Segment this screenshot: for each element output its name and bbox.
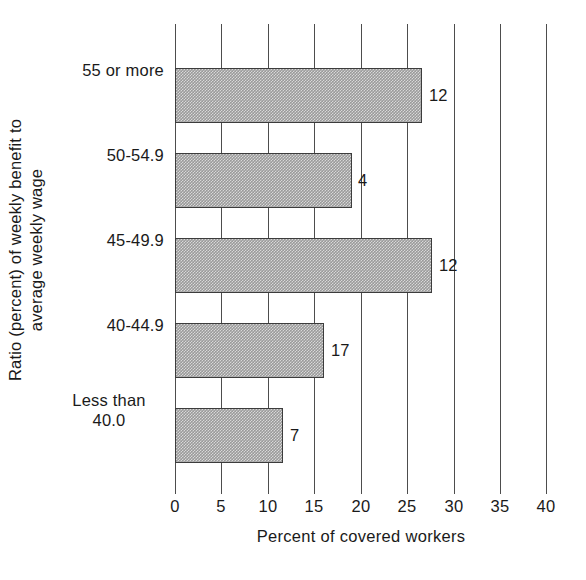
x-axis-tick-5 [221,482,222,494]
bar-value-2: 12 [439,256,457,274]
y-axis-tick-label-2: 45-49.9 [46,230,164,250]
x-axis-tick-25 [407,482,408,494]
y-axis-tick-labels: 55 or more 50-54.9 45-49.9 40-44.9 Less … [52,24,170,482]
y-axis-tick-label-4: Less than 40.0 [50,390,168,430]
gridline-40 [546,24,547,482]
bar-4[interactable] [175,408,283,463]
y-axis-tick-label-0: 55 or more [46,60,164,80]
x-axis-tick-label-6: 30 [445,496,464,516]
y-axis-tick-label-3: 40-44.9 [46,315,164,335]
y-axis-title-line2: average weekly wage [26,119,47,381]
bar-value-1: 4 [358,171,367,189]
x-axis-tick-label-5: 25 [398,496,417,516]
x-axis-tick-40 [546,482,547,494]
bar-chart: Ratio (percent) of weekly benefit to ave… [0,0,586,580]
bar-value-3: 17 [331,341,349,359]
x-axis-tick-label-0: 0 [170,496,179,516]
bar-0[interactable] [175,68,422,123]
y-axis-tick-label-4-line1: Less than [72,391,145,409]
gridline-35 [500,24,501,482]
x-axis-tick-20 [361,482,362,494]
bar-2[interactable] [175,238,432,293]
x-axis-tick-label-1: 5 [216,496,225,516]
x-axis-tick-label-2: 10 [259,496,278,516]
y-axis-tick-label-1: 50-54.9 [46,145,164,165]
x-axis-title: Percent of covered workers [175,527,547,546]
x-axis-tick-15 [314,482,315,494]
bar-1[interactable] [175,153,352,208]
plot-area: 12 4 12 17 7 [175,24,547,482]
gridline-30 [454,24,455,482]
x-axis-tick-label-7: 35 [491,496,510,516]
x-axis-ticks [175,482,547,494]
x-axis-tick-0 [175,482,176,494]
bar-value-0: 12 [429,86,447,104]
x-axis-tick-label-8: 40 [537,496,556,516]
bar-value-4: 7 [290,426,299,444]
x-axis-tick-label-4: 20 [352,496,371,516]
x-axis-tick-labels: 0 5 10 15 20 25 30 35 40 [175,496,547,518]
y-axis-title: Ratio (percent) of weekly benefit to ave… [0,0,52,500]
x-axis-tick-label-3: 15 [305,496,324,516]
x-axis-tick-35 [500,482,501,494]
x-axis-tick-30 [454,482,455,494]
y-axis-tick-label-4-line2: 40.0 [93,411,126,429]
x-axis-tick-10 [268,482,269,494]
bar-3[interactable] [175,323,324,378]
y-axis-title-line1: Ratio (percent) of weekly benefit to [5,119,26,381]
